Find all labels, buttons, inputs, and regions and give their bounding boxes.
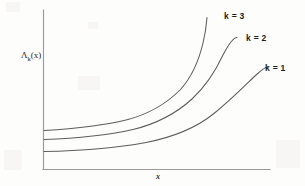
curve-k3 xyxy=(44,18,207,131)
series-label-k1: k = 1 xyxy=(265,63,286,73)
figure-container: Λk(x) x k = 3 k = 2 k = 1 xyxy=(0,0,305,186)
curve-k2 xyxy=(44,38,237,140)
series-label-k2: k = 2 xyxy=(246,33,267,43)
y-axis-label: Λk(x) xyxy=(21,50,41,62)
plot-area xyxy=(0,0,305,186)
curve-k1 xyxy=(44,67,268,152)
series-label-k3: k = 3 xyxy=(224,11,245,21)
y-axis-label-arg: (x) xyxy=(31,50,42,60)
x-axis-label: x xyxy=(156,172,160,181)
